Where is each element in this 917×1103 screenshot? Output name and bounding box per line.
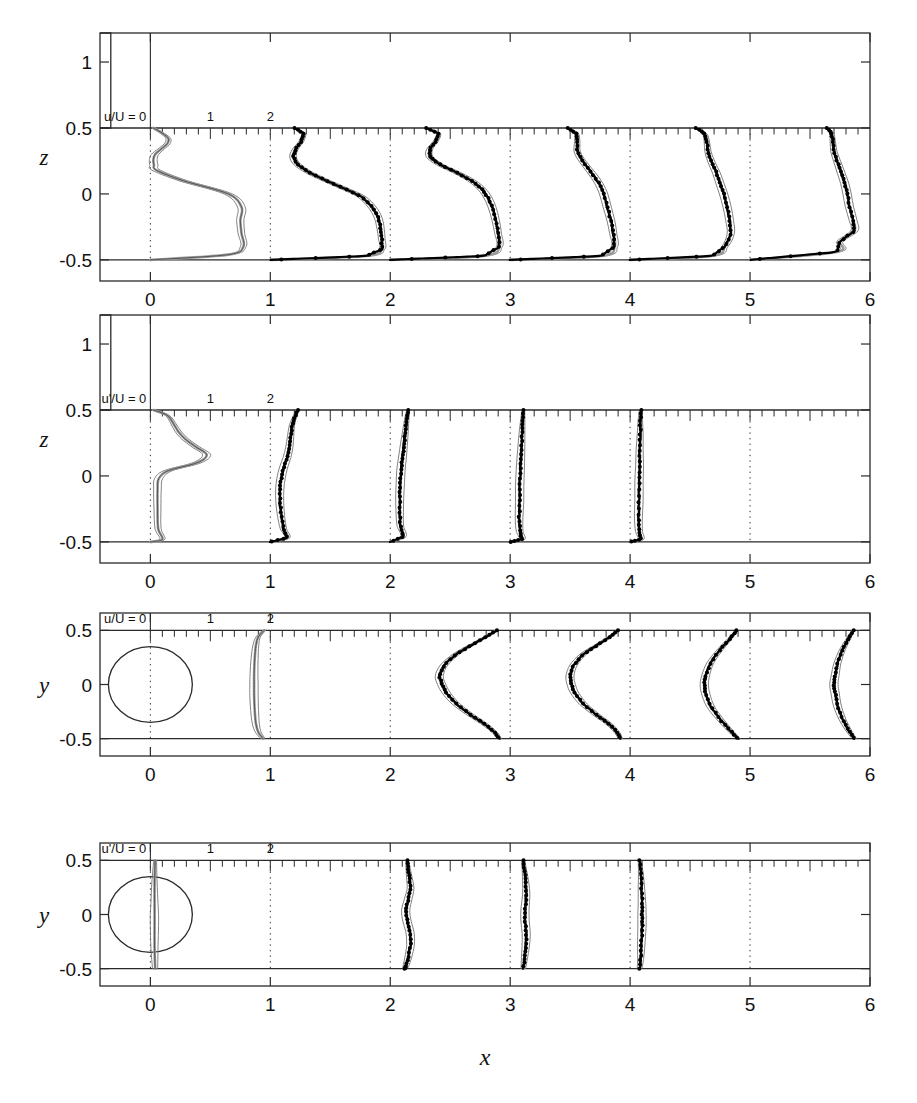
data-point	[279, 257, 283, 261]
data-point	[468, 713, 472, 717]
data-point	[396, 537, 400, 541]
scale-label: u'/U = 0	[102, 841, 147, 856]
data-point	[835, 702, 839, 706]
data-point	[518, 471, 522, 475]
data-point	[520, 430, 524, 434]
y-tick-label: 0	[81, 466, 92, 487]
data-point	[523, 953, 527, 957]
x-tick-label: 1	[265, 994, 276, 1015]
data-point	[845, 192, 849, 196]
data-point	[714, 653, 718, 657]
data-point	[715, 173, 719, 177]
data-point	[285, 458, 289, 462]
y-tick-label: 0.5	[66, 400, 92, 421]
data-point	[703, 689, 707, 693]
data-point	[612, 237, 616, 241]
data-point	[407, 895, 411, 899]
panel-1: -0.500.51u/U = 012z0123456	[39, 33, 876, 310]
data-point	[639, 887, 643, 891]
data-point	[407, 928, 411, 932]
data-point	[602, 192, 606, 196]
data-point	[590, 709, 594, 713]
data-point	[519, 257, 523, 261]
data-point	[705, 671, 709, 675]
data-point	[639, 867, 643, 871]
data-point	[492, 212, 496, 216]
data-point	[571, 665, 575, 669]
data-point	[434, 160, 438, 164]
x-tick-label: 1	[265, 289, 276, 310]
data-point	[838, 711, 842, 715]
data-point	[404, 910, 408, 914]
data-point	[366, 200, 370, 204]
x-tick-label: 5	[745, 764, 756, 785]
data-point	[276, 538, 280, 542]
data-point	[518, 498, 522, 502]
data-point	[292, 126, 296, 130]
data-point	[832, 147, 836, 151]
data-point	[432, 130, 436, 134]
data-point	[401, 453, 405, 457]
data-point	[347, 255, 351, 259]
data-point	[638, 449, 642, 453]
data-point	[398, 476, 402, 480]
data-point	[520, 426, 524, 430]
data-point	[524, 942, 528, 946]
profile-station	[388, 126, 503, 261]
data-point	[609, 219, 613, 223]
data-point	[290, 428, 294, 432]
data-point	[618, 735, 622, 739]
data-point	[442, 665, 446, 669]
data-point	[727, 214, 731, 218]
data-point	[518, 493, 522, 497]
data-point	[840, 648, 844, 652]
data-point	[486, 725, 490, 729]
axis-name-x: x	[479, 1044, 491, 1070]
data-point	[405, 416, 409, 420]
data-point	[286, 450, 290, 454]
x-tick-label: 3	[505, 994, 516, 1015]
data-point	[296, 162, 300, 166]
y-tick-label: -0.5	[59, 250, 92, 271]
data-point	[572, 691, 576, 695]
data-point	[473, 716, 477, 720]
data-point	[640, 913, 644, 917]
data-point	[524, 877, 528, 881]
x-tick-label: 1	[265, 764, 276, 785]
panel-3: -0.500.5u/U = 012y0123456	[37, 611, 875, 785]
data-point	[851, 223, 855, 227]
data-point	[842, 177, 846, 181]
profile-station	[388, 408, 410, 543]
data-point	[840, 173, 844, 177]
data-point	[509, 540, 513, 544]
data-point	[842, 645, 846, 649]
data-point	[588, 170, 592, 174]
profile-station	[700, 628, 740, 739]
data-point	[408, 946, 412, 950]
data-point	[851, 230, 855, 234]
data-point	[717, 249, 721, 253]
data-point	[519, 444, 523, 448]
data-point	[345, 188, 349, 192]
scale-tick-label: 2	[267, 391, 274, 406]
y-tick-label: 0.5	[66, 118, 92, 139]
data-point	[402, 435, 406, 439]
data-point	[408, 876, 412, 880]
data-point	[518, 487, 522, 491]
data-point	[523, 907, 527, 911]
data-point	[637, 500, 641, 504]
data-point	[716, 715, 720, 719]
data-point	[837, 241, 841, 245]
data-point	[404, 906, 408, 910]
x-tick-label: 4	[625, 289, 636, 310]
data-point	[852, 226, 856, 230]
profile-line-simulation	[152, 128, 247, 260]
data-point	[637, 518, 641, 522]
profile-line-simulation	[508, 128, 612, 260]
data-point	[839, 170, 843, 174]
data-point	[378, 223, 382, 227]
data-point	[639, 939, 643, 943]
data-point	[524, 898, 528, 902]
x-tick-label: 4	[625, 994, 636, 1015]
data-point	[637, 538, 641, 542]
